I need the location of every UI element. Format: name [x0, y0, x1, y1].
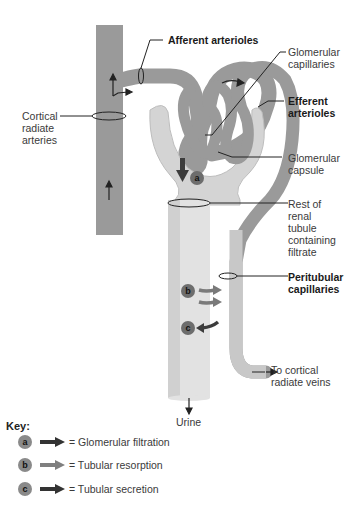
key-text-resorption: = Tubular resorption [69, 459, 163, 471]
key-row-resorption: b = Tubular resorption [18, 457, 163, 473]
label-peritubular-capillaries: Peritubular capillaries [288, 271, 343, 295]
label-afferent-arterioles: Afferent arterioles [168, 34, 258, 46]
key-title: Key: [6, 420, 30, 432]
key-row-filtration: a = Glomerular filtration [18, 434, 170, 450]
label-glomerular-capsule: Glomerular capsule [288, 152, 340, 176]
marker-c: c [181, 321, 195, 335]
filtration-arrow-icon [40, 437, 66, 447]
key-text-secretion: = Tubular secretion [69, 483, 159, 495]
marker-b: b [181, 284, 195, 298]
label-rest-of-renal-tubule: Rest of renal tubule containing filtrate [288, 198, 336, 258]
key-row-secretion: c = Tubular secretion [18, 481, 159, 497]
badge-b: b [18, 458, 32, 472]
label-cortical-radiate-arteries: Cortical radiate arteries [22, 110, 58, 146]
label-to-cortical-radiate-veins: To cortical radiate veins [271, 364, 331, 388]
label-glomerular-capillaries: Glomerular capillaries [288, 46, 340, 70]
resorption-arrow-icon [40, 460, 66, 470]
label-urine: Urine [176, 416, 201, 428]
cortical-radiate-artery [96, 25, 123, 235]
secretion-arrow-icon [40, 484, 66, 494]
badge-c: c [18, 482, 32, 496]
key-text-filtration: = Glomerular filtration [69, 436, 170, 448]
label-efferent-arterioles: Efferent arterioles [288, 95, 335, 119]
marker-a: a [190, 171, 204, 185]
badge-a: a [18, 435, 32, 449]
